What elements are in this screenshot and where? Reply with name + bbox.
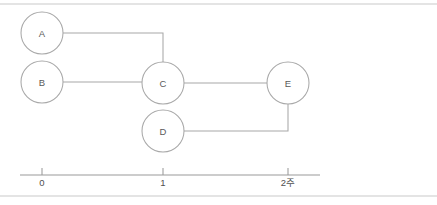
node-e-label: E	[285, 78, 292, 89]
node-a[interactable]: A	[21, 12, 63, 54]
node-c[interactable]: C	[142, 62, 184, 104]
node-d-label: D	[159, 126, 166, 137]
activity-network-diagram: A B C D E 0 1	[0, 0, 437, 205]
node-e[interactable]: E	[267, 62, 309, 104]
node-b-label: B	[39, 77, 46, 88]
edge-a-to-c	[63, 33, 163, 62]
axis-tick-label-2: 2주	[281, 177, 295, 188]
node-c-label: C	[159, 78, 166, 89]
diagram-canvas: A B C D E 0 1	[0, 0, 437, 205]
axis-tick-label-0: 0	[39, 177, 44, 188]
axis-tick-label-1: 1	[160, 177, 165, 188]
node-d[interactable]: D	[142, 110, 184, 152]
node-a-label: A	[39, 28, 46, 39]
edge-d-to-e	[184, 104, 288, 131]
node-b[interactable]: B	[21, 61, 63, 103]
timeline-axis: 0 1 2주	[20, 168, 320, 188]
